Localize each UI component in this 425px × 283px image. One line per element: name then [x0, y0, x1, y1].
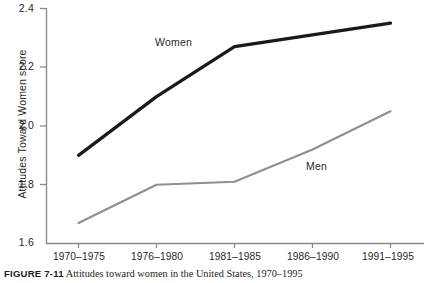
y-tick-label-1-8: 1.8 [4, 179, 34, 190]
y-tick-label-2-4: 2.4 [4, 3, 34, 14]
x-tick-label-1970-1975: 1970–1975 [34, 251, 124, 263]
chart-plot-area: Attitudes Toward Women score 2.4 2.2 2.0… [0, 0, 425, 248]
data-line-men [79, 111, 391, 223]
y-axis-ticks [40, 9, 46, 185]
y-tick-label-1-6: 1.6 [4, 237, 34, 248]
figure-caption: FIGURE 7-11 Attitudes toward women in th… [4, 267, 422, 283]
x-tick-label-1991-1995: 1991–1995 [343, 251, 425, 263]
figure-caption-number: FIGURE 7-11 [4, 268, 64, 279]
x-tick-label-1976-1980: 1976–1980 [112, 251, 202, 263]
x-tick-label-1981-1985: 1981–1985 [190, 251, 280, 263]
line-chart-svg [0, 0, 425, 248]
series-label-men: Men [306, 160, 327, 172]
figure-caption-text: Attitudes toward women in the United Sta… [66, 268, 303, 279]
data-line-women [79, 23, 391, 155]
figure-container: Attitudes Toward Women score 2.4 2.2 2.0… [0, 0, 425, 283]
y-tick-label-2-0: 2.0 [4, 120, 34, 131]
series-label-women: Women [155, 36, 192, 48]
y-tick-label-2-2: 2.2 [4, 61, 34, 72]
